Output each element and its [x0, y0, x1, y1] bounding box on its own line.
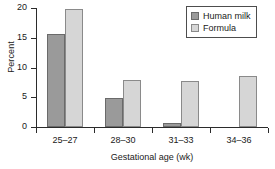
x-tick-label: 28–30	[94, 136, 152, 145]
x-tick-mark	[36, 128, 37, 133]
x-tick-mark	[210, 128, 211, 133]
y-tick-label: 0	[0, 122, 27, 131]
x-tick-label: 34–36	[210, 136, 268, 145]
bar	[123, 80, 141, 127]
y-tick-label: 15	[0, 33, 27, 42]
y-tick-label: 10	[0, 63, 27, 72]
bar	[105, 98, 123, 127]
x-axis-label: Gestational age (wk)	[36, 152, 268, 162]
chart-legend: Human milkFormula	[186, 6, 257, 38]
x-tick-mark	[268, 128, 269, 133]
legend-label: Formula	[203, 24, 236, 33]
bar	[239, 76, 257, 127]
legend-swatch-icon	[191, 12, 199, 20]
bar	[47, 34, 65, 127]
x-tick-mark	[94, 128, 95, 133]
x-tick-label: 31–33	[152, 136, 210, 145]
legend-item: Formula	[191, 22, 251, 34]
x-tick-label: 25–27	[36, 136, 94, 145]
bar-chart: Percent 05101520 25–2728–3031–3334–36 Ge…	[0, 0, 275, 169]
bar	[65, 9, 83, 127]
bar	[181, 81, 199, 127]
y-tick-label: 5	[0, 92, 27, 101]
y-tick-label: 20	[0, 3, 27, 12]
x-tick-mark	[152, 128, 153, 133]
legend-item: Human milk	[191, 10, 251, 22]
legend-label: Human milk	[203, 12, 251, 21]
legend-swatch-icon	[191, 24, 199, 32]
